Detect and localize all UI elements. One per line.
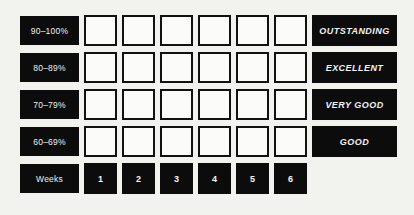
week-header-4[interactable]: 5 [236,163,269,194]
grid-cell-r1c4[interactable] [236,52,269,83]
row-range-label-1: 80–89% [20,53,79,82]
grid-cell-r0c4[interactable] [236,15,269,46]
score-tracking-chart: 90–100% OUTSTANDING 80–89% EXCELLENT 70–… [0,0,414,215]
grid-cell-r3c2[interactable] [160,126,193,157]
grid-cell-r1c5[interactable] [274,52,307,83]
rating-label-1: EXCELLENT [312,52,397,83]
grid-cell-r0c2[interactable] [160,15,193,46]
grid-cell-r3c1[interactable] [122,126,155,157]
rating-label-3: GOOD [312,126,397,157]
grid-cell-r1c2[interactable] [160,52,193,83]
grid-cell-r1c3[interactable] [198,52,231,83]
grid-cell-r2c4[interactable] [236,89,269,120]
grid-cell-r3c0[interactable] [84,126,117,157]
grid-cell-r1c1[interactable] [122,52,155,83]
rating-label-2: VERY GOOD [312,89,397,120]
grid-cell-r2c5[interactable] [274,89,307,120]
row-range-label-2: 70–79% [20,90,79,119]
week-header-5[interactable]: 6 [274,163,307,194]
grid-cell-r3c5[interactable] [274,126,307,157]
grid-cell-r0c1[interactable] [122,15,155,46]
rating-label-0: OUTSTANDING [312,15,397,46]
grid-cell-r2c2[interactable] [160,89,193,120]
weeks-axis-label: Weeks [20,164,79,193]
row-range-label-0: 90–100% [20,16,79,45]
grid-cell-r0c0[interactable] [84,15,117,46]
grid-cell-r2c3[interactable] [198,89,231,120]
grid-cell-r0c5[interactable] [274,15,307,46]
week-header-3[interactable]: 4 [198,163,231,194]
week-header-1[interactable]: 2 [122,163,155,194]
week-header-2[interactable]: 3 [160,163,193,194]
grid-cell-r1c0[interactable] [84,52,117,83]
grid-cell-r3c4[interactable] [236,126,269,157]
grid-cell-r3c3[interactable] [198,126,231,157]
grid-cell-r0c3[interactable] [198,15,231,46]
row-range-label-3: 60–69% [20,127,79,156]
week-header-0[interactable]: 1 [84,163,117,194]
grid-cell-r2c0[interactable] [84,89,117,120]
grid-cell-r2c1[interactable] [122,89,155,120]
